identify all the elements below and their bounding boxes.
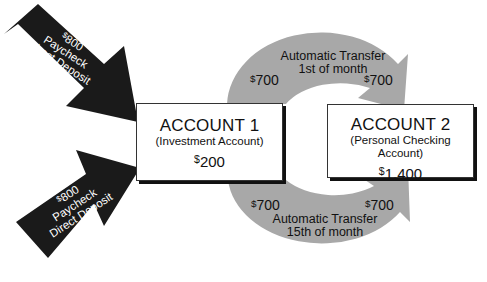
account-2-box: ACCOUNT 2 (Personal Checking Account) $1…: [327, 104, 474, 178]
account-2-title: ACCOUNT 2: [328, 116, 473, 134]
account-1-balance: $200: [137, 150, 282, 171]
account-2-subtitle: (Personal Checking Account): [328, 134, 473, 160]
transfer-bottom-label: Automatic Transfer 15th of month: [263, 213, 387, 239]
transfer-bottom-from-amount: $700: [251, 197, 280, 212]
account-1-subtitle: (Investment Account): [137, 135, 282, 148]
transfer-top-to-amount: $700: [364, 72, 393, 87]
account-1-title: ACCOUNT 1: [137, 117, 282, 135]
transfer-top-from-amount: $700: [250, 72, 279, 87]
account-2-balance: $1,400: [328, 162, 473, 183]
account-1-box: ACCOUNT 1 (Investment Account) $200: [136, 103, 283, 181]
transfer-bottom-to-amount: $700: [365, 197, 394, 212]
